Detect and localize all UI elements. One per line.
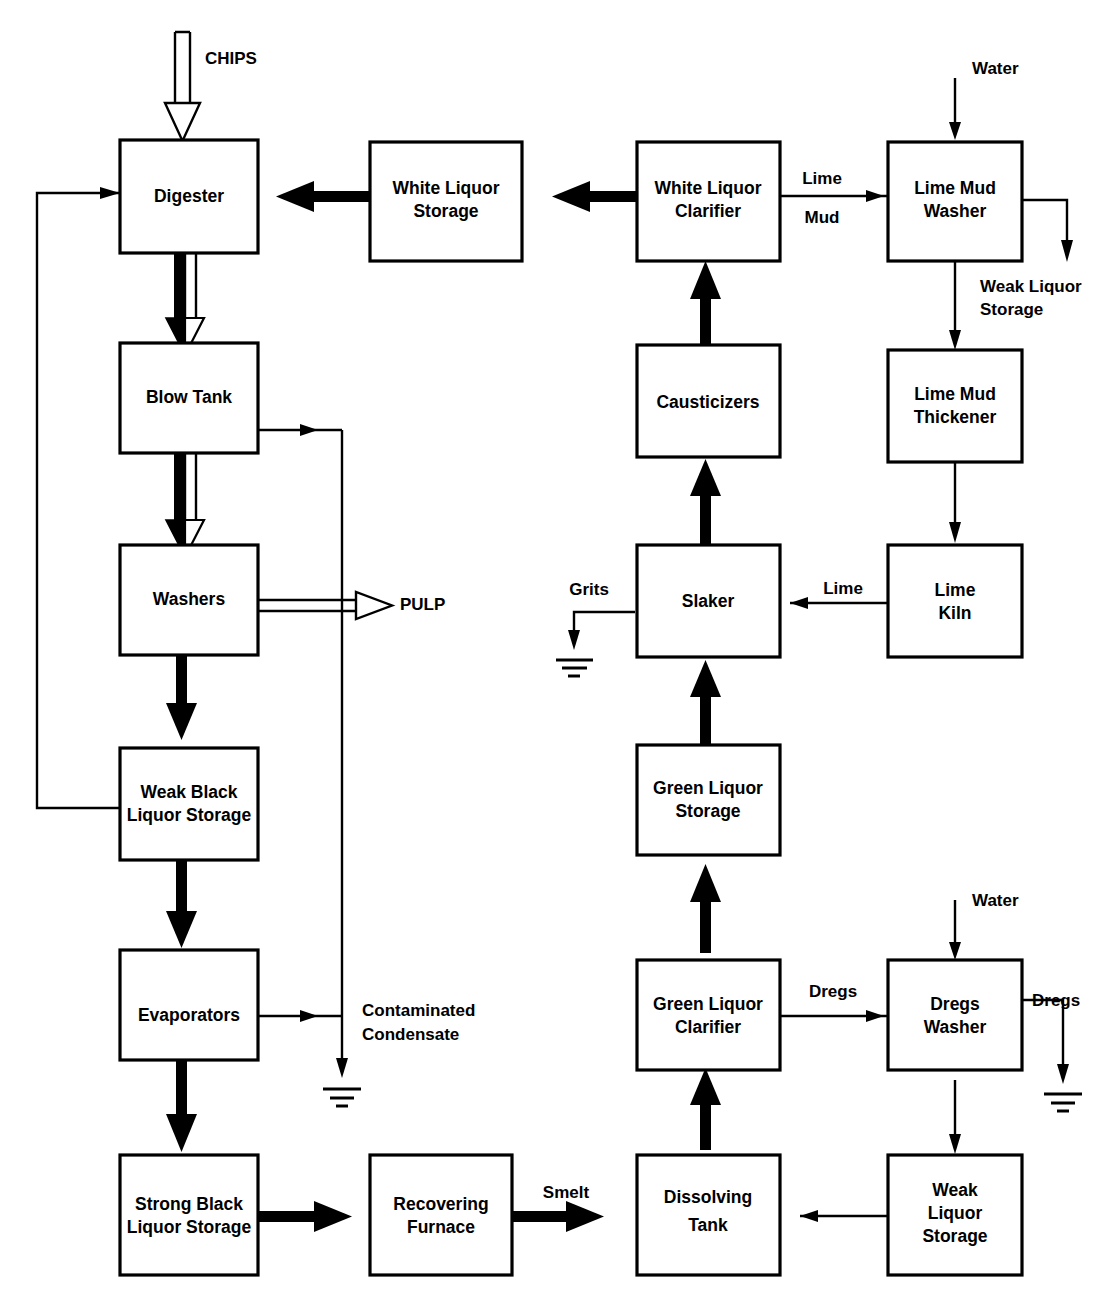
stream-label-condensate: Condensate (362, 1025, 459, 1044)
node-label-dregs-washer-1: Dregs (930, 994, 980, 1014)
node-label-white-clarifier-1: White Liquor (655, 178, 762, 198)
stream-dissolving-to-greenclarifier (690, 1068, 721, 1150)
stream-whiteclarifier-to-whitestorage (552, 181, 638, 212)
node-lime-mud-washer[interactable]: Lime Mud Washer (888, 142, 1022, 261)
stream-label-mud: Mud (805, 208, 840, 227)
stream-lime-kiln-to-slaker (790, 597, 888, 609)
node-label-lime-kiln-2: Kiln (938, 603, 971, 623)
node-green-liquor-clarifier[interactable]: Green Liquor Clarifier (637, 960, 780, 1070)
stream-pulp-out (258, 592, 392, 619)
stream-limemud-to-washer (780, 190, 888, 202)
node-label-washers: Washers (153, 589, 226, 609)
node-label-strong-black-2: Liquor Storage (127, 1217, 252, 1237)
stream-weakliquor-to-dissolving (800, 1210, 888, 1222)
node-label-digester: Digester (154, 186, 224, 206)
stream-label-weak-liquor-storage-2: Storage (980, 300, 1043, 319)
node-label-weak-liquor-3: Storage (922, 1226, 987, 1246)
node-slaker[interactable]: Slaker (637, 545, 780, 657)
stream-thickener-to-limekiln (949, 462, 961, 543)
stream-label-dregs-washer-out: Dregs (1032, 991, 1080, 1010)
node-label-lime-washer-2: Washer (924, 201, 987, 221)
node-label-dissolving-2: Tank (688, 1215, 728, 1235)
node-label-blow-tank: Blow Tank (146, 387, 232, 407)
node-label-lime-washer-1: Lime Mud (914, 178, 996, 198)
stream-strongblack-to-furnace (258, 1201, 352, 1232)
node-recovering-furnace[interactable]: Recovering Furnace (370, 1155, 512, 1275)
stream-grits-out (556, 612, 635, 676)
stream-label-contaminated: Contaminated (362, 1001, 475, 1020)
node-label-thickener-2: Thickener (914, 407, 997, 427)
node-label-green-storage-1: Green Liquor (653, 778, 763, 798)
stream-greenclarifier-to-greenstorage (690, 864, 721, 953)
stream-digester-to-blowtank (166, 253, 204, 355)
stream-water-to-limemudwasher (949, 78, 961, 140)
stream-label-weak-liquor-storage-1: Weak Liquor (980, 277, 1082, 296)
node-label-recovering-2: Furnace (407, 1217, 475, 1237)
stream-blowtank-to-washers (166, 453, 204, 557)
drain-condensate (323, 1058, 361, 1106)
stream-weakblack-recycle-to-digester (37, 187, 122, 808)
stream-washers-to-weakblack (166, 655, 197, 740)
stream-contaminated-condensate (258, 1010, 342, 1022)
node-label-green-storage-2: Storage (675, 801, 740, 821)
process-flow-diagram: Digester Blow Tank Washers Weak Black Li… (0, 0, 1116, 1302)
node-label-dregs-washer-2: Washer (924, 1017, 987, 1037)
node-digester[interactable]: Digester (120, 140, 258, 253)
node-weak-liquor-storage[interactable]: Weak Liquor Storage (888, 1155, 1022, 1275)
node-label-thickener-1: Lime Mud (914, 384, 996, 404)
stream-dregswasher-to-weakliquor (949, 1080, 961, 1154)
stream-label-pulp: PULP (400, 595, 445, 614)
stream-causticizers-to-whiteclarifier (690, 261, 721, 344)
node-label-weak-black-2: Liquor Storage (127, 805, 252, 825)
node-washers[interactable]: Washers (120, 545, 258, 655)
node-label-weak-black-1: Weak Black (141, 782, 238, 802)
stream-label-smelt: Smelt (543, 1183, 590, 1202)
stream-label-lime: Lime (802, 169, 842, 188)
node-label-slaker: Slaker (682, 591, 735, 611)
node-label-white-storage-2: Storage (413, 201, 478, 221)
node-dregs-washer[interactable]: Dregs Washer (888, 960, 1022, 1070)
stream-weakblack-to-evaporators (166, 860, 197, 948)
node-label-causticizers: Causticizers (656, 392, 759, 412)
node-lime-kiln[interactable]: Lime Kiln (888, 545, 1022, 657)
node-label-green-clarifier-2: Clarifier (675, 1017, 741, 1037)
stream-limemudwasher-to-thickener (949, 260, 961, 350)
flow-diagram-canvas: Digester Blow Tank Washers Weak Black Li… (0, 0, 1116, 1302)
node-white-liquor-clarifier[interactable]: White Liquor Clarifier (637, 142, 780, 261)
node-evaporators[interactable]: Evaporators (120, 950, 258, 1060)
node-white-liquor-storage[interactable]: White Liquor Storage (370, 142, 522, 261)
stream-label-lime-kiln-out: Lime (823, 579, 863, 598)
node-label-weak-liquor-2: Liquor (928, 1203, 983, 1223)
node-label-weak-liquor-1: Weak (932, 1180, 978, 1200)
node-label-dissolving-1: Dissolving (664, 1187, 753, 1207)
node-weak-black-liquor-storage[interactable]: Weak Black Liquor Storage (120, 748, 258, 860)
node-label-white-clarifier-2: Clarifier (675, 201, 741, 221)
node-label-strong-black-1: Strong Black (135, 1194, 243, 1214)
stream-limemudwasher-to-weakliquorstorage (1022, 200, 1073, 262)
stream-label-dregs-clarifier: Dregs (809, 982, 857, 1001)
stream-smelt (512, 1201, 604, 1232)
stream-evaporators-to-strongblack (166, 1060, 197, 1152)
stream-chips (165, 32, 200, 141)
node-label-recovering-1: Recovering (393, 1194, 488, 1214)
stream-label-water-dregs: Water (972, 891, 1019, 910)
node-strong-black-liquor-storage[interactable]: Strong Black Liquor Storage (120, 1155, 258, 1275)
node-causticizers[interactable]: Causticizers (637, 345, 780, 457)
stream-label-chips: CHIPS (205, 49, 257, 68)
stream-greenstorage-to-slaker (690, 660, 721, 744)
stream-dregs-out-to-drain (1022, 1000, 1082, 1111)
node-label-white-storage-1: White Liquor (393, 178, 500, 198)
stream-slaker-to-causticizers (690, 459, 721, 545)
node-label-lime-kiln-1: Lime (935, 580, 976, 600)
stream-water-to-dregswasher (949, 900, 961, 960)
stream-label-water-lime: Water (972, 59, 1019, 78)
node-label-evaporators: Evaporators (138, 1005, 240, 1025)
node-dissolving-tank[interactable]: Dissolving Tank (637, 1155, 780, 1275)
stream-dregs-to-washer (780, 1010, 888, 1022)
stream-label-grits: Grits (569, 580, 609, 599)
node-lime-mud-thickener[interactable]: Lime Mud Thickener (888, 350, 1022, 462)
node-blow-tank[interactable]: Blow Tank (120, 343, 258, 453)
node-green-liquor-storage[interactable]: Green Liquor Storage (637, 745, 780, 855)
stream-whitestorage-to-digester (276, 181, 376, 212)
stream-blowtank-vent (258, 424, 342, 1062)
